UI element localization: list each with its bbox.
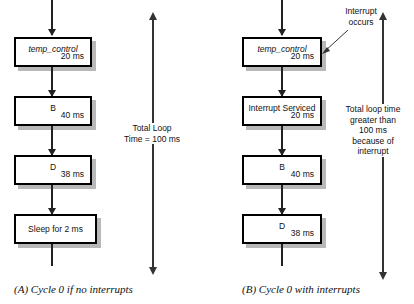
caption-panel-a: (A) Cycle 0 if no interrupts [14,283,133,295]
arrow-head-down-icon [149,267,157,275]
arrow-head-down-icon [379,272,387,280]
arrow-head-up-icon [149,12,157,20]
process-box-b-2[interactable]: Interrupt Serviced 20 ms [242,96,322,126]
figure-canvas: temp_control 20 ms B 40 ms D 38 ms Sleep… [0,0,414,304]
flow-arrow-a-3-4 [51,185,53,214]
process-box-b-1[interactable]: temp_control 20 ms [242,37,322,67]
process-box-a-2[interactable]: B 40 ms [14,96,92,126]
process-box-b-4[interactable]: D 38 ms [242,214,322,244]
flow-arrow-a-out [51,244,53,266]
flow-arrow-b-1-2 [281,67,283,96]
process-box-b-3[interactable]: B 40 ms [242,155,322,185]
flow-arrow-a-1-2 [51,67,53,96]
total-loop-note-a: Total Loop Time = 100 ms [106,123,198,144]
caption-panel-b: (B) Cycle 0 with interrupts [242,283,360,295]
flow-arrow-b-in [281,0,283,35]
process-box-a-3[interactable]: D 38 ms [14,155,92,185]
process-box-a-3-time: 38 ms [61,169,84,179]
process-box-a-4[interactable]: Sleep for 2 ms [14,214,97,244]
total-loop-note-b: Total loop time greater than 100 ms beca… [336,104,410,157]
process-box-a-2-time: 40 ms [61,110,84,120]
process-box-a-4-label: Sleep for 2 ms [16,224,95,234]
process-box-b-3-time: 40 ms [291,169,314,179]
flow-arrow-b-out [281,244,283,266]
process-box-a-1-time: 20 ms [61,51,84,61]
process-box-a-1[interactable]: temp_control 20 ms [14,37,92,67]
flow-arrow-b-3-4 [281,185,283,214]
interrupt-callout-leader-line [322,28,350,54]
process-box-b-1-time: 20 ms [291,51,314,61]
flow-arrow-b-2-3 [281,126,283,155]
arrow-head-up-icon [379,12,387,20]
process-box-b-2-time: 20 ms [291,110,314,120]
process-box-b-4-time: 38 ms [291,228,314,238]
flow-arrow-a-in [51,0,53,35]
flow-arrow-a-2-3 [51,126,53,155]
